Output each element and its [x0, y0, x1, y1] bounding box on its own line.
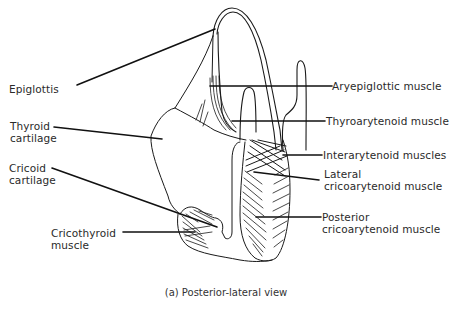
label-posterior-cricoarytenoid-muscle: Posterior cricoarytenoid muscle — [322, 211, 440, 235]
label-line: Epiglottis — [9, 83, 59, 95]
figure-caption: (a) Posterior-lateral view — [0, 287, 452, 298]
label-line: muscle — [51, 239, 116, 251]
aryepiglottic-striations — [196, 76, 236, 130]
label-cricothyroid-muscle: Cricothyroid muscle — [51, 227, 116, 251]
posterior-cricoarytenoid-striations — [243, 168, 289, 256]
leader-cricoid-cartilage — [52, 168, 217, 227]
label-aryepiglottic-muscle: Aryepiglottic muscle — [332, 80, 442, 92]
label-line: Thyroid — [10, 120, 57, 132]
label-line: Cricoid — [9, 162, 56, 174]
label-line: cricoarytenoid muscle — [324, 180, 442, 192]
label-line: cartilage — [10, 132, 57, 144]
label-cricoid-cartilage: Cricoid cartilage — [9, 162, 56, 186]
label-thyroarytenoid-muscle: Thyroarytenoid muscle — [326, 115, 449, 127]
label-interarytenoid-muscles: Interarytenoid muscles — [323, 149, 446, 161]
label-lateral-cricoarytenoid-muscle: Lateral cricoarytenoid muscle — [324, 168, 442, 192]
label-line: cartilage — [9, 174, 56, 186]
label-line: Cricothyroid — [51, 227, 116, 239]
larynx-diagram — [0, 0, 452, 332]
label-thyroid-cartilage: Thyroid cartilage — [10, 120, 57, 144]
label-line: Interarytenoid muscles — [323, 149, 446, 161]
leader-thyroid-cartilage — [54, 127, 162, 139]
label-line: Lateral — [324, 168, 442, 180]
cricoarytenoid-muscle-shape — [240, 140, 290, 261]
label-line: Thyroarytenoid muscle — [326, 115, 449, 127]
label-line: Aryepiglottic muscle — [332, 80, 442, 92]
leader-lateral-cricoarytenoid — [254, 172, 319, 180]
label-line: Posterior — [322, 211, 440, 223]
label-line: cricoarytenoid muscle — [322, 223, 440, 235]
cricoid-cartilage-shape — [177, 142, 272, 262]
label-epiglottis: Epiglottis — [9, 83, 59, 95]
epiglottis-shape — [213, 8, 282, 150]
arytenoid-shape — [240, 61, 306, 150]
